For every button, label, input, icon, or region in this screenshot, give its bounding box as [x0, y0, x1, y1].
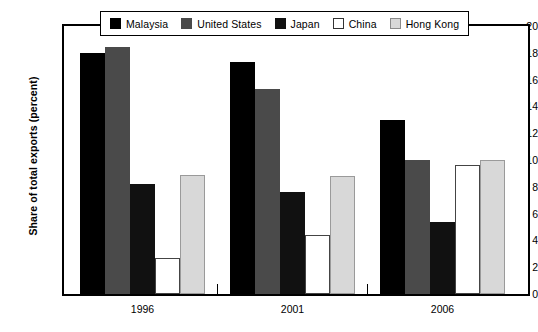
japan-swatch-icon	[275, 18, 286, 29]
legend-item-hong-kong[interactable]: Hong Kong	[390, 18, 459, 30]
legend-item-united-states[interactable]: United States	[181, 18, 261, 30]
bar-japan-2006	[430, 222, 455, 294]
bar-china-2006	[455, 165, 480, 294]
bar-group-1996	[80, 26, 205, 294]
x-axis-group-separator	[217, 284, 218, 294]
bar-united-states-2006	[405, 160, 430, 294]
legend-item-malaysia[interactable]: Malaysia	[110, 18, 168, 30]
bar-china-2001	[305, 235, 330, 294]
bar-malaysia-2001	[230, 62, 255, 294]
bar-hong-kong-2001	[330, 176, 355, 294]
bars-layer	[62, 24, 530, 296]
legend-label: Japan	[291, 18, 320, 30]
chart-legend: MalaysiaUnited StatesJapanChinaHong Kong	[100, 11, 469, 36]
legend-label: Malaysia	[126, 18, 168, 30]
legend-item-china[interactable]: China	[333, 18, 377, 30]
legend-label: United States	[197, 18, 261, 30]
bar-malaysia-2006	[380, 120, 405, 294]
y-axis-title: Share of total exports (percent)	[27, 31, 39, 281]
bar-united-states-1996	[105, 47, 130, 294]
china-swatch-icon	[333, 18, 344, 29]
bar-group-2006	[380, 26, 505, 294]
bar-china-1996	[155, 258, 180, 294]
bar-malaysia-1996	[80, 53, 105, 294]
bar-group-2001	[230, 26, 355, 294]
legend-label: China	[349, 18, 377, 30]
grouped-bar-chart: Share of total exports (percent) 0246810…	[0, 0, 538, 332]
legend-item-japan[interactable]: Japan	[275, 18, 320, 30]
bar-japan-1996	[130, 184, 155, 294]
bar-hong-kong-2006	[480, 160, 505, 294]
united-states-swatch-icon	[181, 18, 192, 29]
bar-hong-kong-1996	[180, 175, 205, 294]
bar-united-states-2001	[255, 89, 280, 294]
hong-kong-swatch-icon	[390, 18, 401, 29]
x-axis-label-2006: 2006	[431, 303, 454, 315]
x-axis-label-2001: 2001	[281, 303, 304, 315]
malaysia-swatch-icon	[110, 18, 121, 29]
legend-label: Hong Kong	[406, 18, 459, 30]
x-axis-group-separator	[367, 284, 368, 294]
bar-japan-2001	[280, 192, 305, 294]
x-axis-label-1996: 1996	[131, 303, 154, 315]
